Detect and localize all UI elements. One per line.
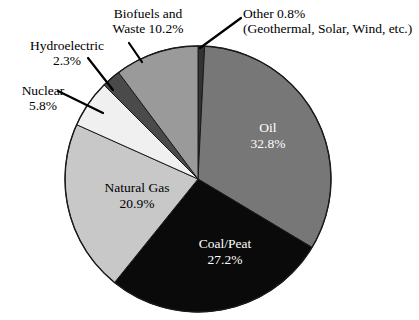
slice-label-nuclear-line1: Nuclear [2, 83, 84, 98]
slice-label-biofuels-line1: Biofuels and [88, 6, 208, 21]
slice-label-hydroelectric: Hydroelectric 2.3% [8, 38, 126, 69]
slice-label-other-line1: Other 0.8% [243, 6, 419, 21]
leader-line-biofuels [129, 43, 142, 62]
slice-label-other-note: (Geothermal, Solar, Wind, etc.) [243, 21, 419, 36]
slice-label-hydroelectric-line1: Hydroelectric [8, 38, 126, 53]
slice-label-nuclear-line2: 5.8% [2, 98, 84, 113]
pie-chart: Biofuels and Waste 10.2% Other 0.8% (Geo… [0, 0, 419, 320]
pie-slices [65, 46, 331, 312]
slice-label-biofuels-line2: Waste 10.2% [88, 21, 208, 36]
slice-label-nuclear: Nuclear 5.8% [2, 83, 84, 114]
slice-label-biofuels-and-waste: Biofuels and Waste 10.2% [88, 6, 208, 37]
slice-label-other: Other 0.8% (Geothermal, Solar, Wind, etc… [243, 6, 419, 37]
slice-label-hydroelectric-line2: 2.3% [8, 53, 126, 68]
